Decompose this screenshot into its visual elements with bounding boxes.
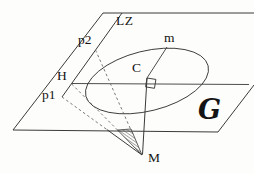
hatched-wedge (118, 129, 143, 155)
figure-canvas: LZ p2 H p1 m C G M (0, 0, 254, 174)
label-point-p1: p1 (42, 88, 56, 102)
label-plane-g: G (198, 96, 221, 123)
label-mass-m: m (164, 31, 175, 45)
label-point-p2: p2 (78, 33, 92, 47)
label-center-c: C (132, 61, 141, 75)
chord-line (72, 84, 249, 85)
label-apex-m: M (148, 151, 160, 165)
dashed-line-h-m (72, 84, 118, 130)
label-point-h: H (57, 69, 67, 83)
axis-line-c-m (143, 78, 148, 155)
radius-line-m-c (147, 47, 167, 78)
dashed-line-p1-m (62, 97, 107, 130)
label-axis-lz: LZ (116, 14, 134, 28)
